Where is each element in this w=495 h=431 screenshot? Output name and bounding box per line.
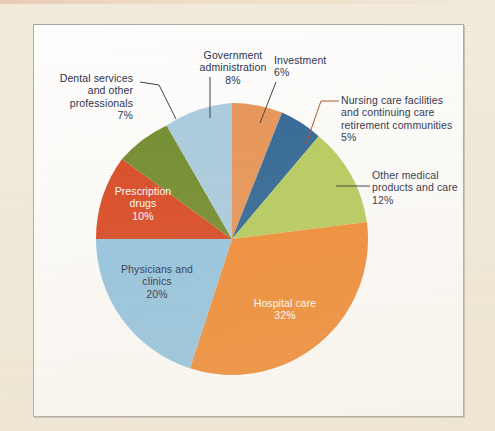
leader-line-dental [140, 82, 176, 119]
pie-label-other-medical: Other medical products and care 12% [372, 169, 464, 206]
pie-label-physicians-clinics: Physicians and clinics 20% [102, 263, 212, 300]
page-top-edge-tint [0, 0, 495, 4]
pie-label-investment: Investment 6% [274, 54, 364, 79]
pie-chart-figure-panel: Dental services and other professionals … [33, 24, 464, 417]
pie-label-prescription-drugs: Prescription drugs 10% [96, 185, 190, 222]
pie-label-hospital-care: Hospital care 32% [230, 297, 340, 322]
pie-label-dental-services: Dental services and other professionals … [33, 72, 133, 122]
pie-label-nursing-care: Nursing care facilities and continuing c… [341, 94, 464, 144]
